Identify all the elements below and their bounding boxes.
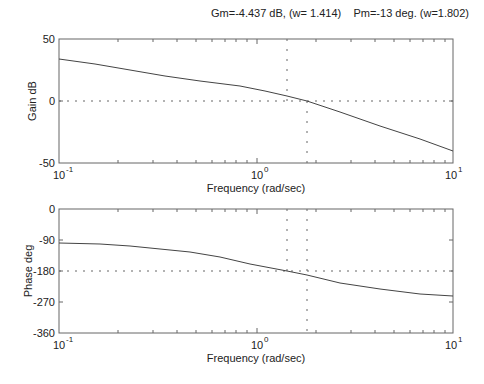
gain-ytick-50: 50 [43, 33, 55, 45]
svg-text:10: 10 [251, 339, 263, 351]
phase-ytick-neg90: -90 [39, 234, 55, 246]
phase-ytick-neg180: -180 [33, 265, 55, 277]
svg-text:10: 10 [53, 339, 65, 351]
svg-text:-1: -1 [66, 335, 74, 344]
svg-text:1: 1 [458, 165, 463, 174]
svg-text:10: 10 [251, 169, 263, 181]
phase-xtick-2: 10 1 [445, 335, 463, 351]
figure-title: Gm=-4.437 dB, (w= 1.414) Pm=-13 deg. (w=… [211, 7, 469, 19]
gain-ylabel: Gain dB [26, 81, 38, 121]
gain-ytick-neg50: -50 [39, 157, 55, 169]
phase-ytick-neg270: -270 [33, 296, 55, 308]
svg-text:0: 0 [264, 165, 269, 174]
gain-xlabel: Frequency (rad/sec) [207, 182, 305, 194]
phase-ytick-neg360: -360 [33, 327, 55, 339]
gain-axes: 50 0 -50 10 -1 10 0 10 1 Frequency (rad/… [26, 33, 463, 194]
gain-xtick-1: 10 0 [251, 165, 269, 181]
phase-xtick-1: 10 0 [251, 335, 269, 351]
gain-axes-frame [59, 39, 453, 163]
svg-text:-1: -1 [66, 165, 74, 174]
phase-curve [59, 243, 453, 296]
bode-figure: Gm=-4.437 dB, (w= 1.414) Pm=-13 deg. (w=… [0, 0, 484, 384]
phase-axes: 0 -90 -180 -270 -360 10 -1 10 0 10 1 Fre… [22, 203, 463, 364]
gain-x-ticks [59, 39, 453, 163]
phase-xlabel: Frequency (rad/sec) [207, 352, 305, 364]
phase-axes-frame [59, 209, 453, 333]
gain-ytick-0: 0 [49, 95, 55, 107]
gain-curve [59, 59, 453, 151]
svg-text:0: 0 [264, 335, 269, 344]
svg-text:10: 10 [53, 169, 65, 181]
gain-xtick-2: 10 1 [445, 165, 463, 181]
phase-x-ticks [59, 209, 453, 333]
svg-text:1: 1 [458, 335, 463, 344]
phase-ylabel: Phase deg [22, 245, 34, 298]
phase-xtick-0: 10 -1 [53, 335, 74, 351]
svg-text:10: 10 [445, 339, 457, 351]
gain-xtick-0: 10 -1 [53, 165, 74, 181]
phase-ytick-0: 0 [49, 203, 55, 215]
svg-text:10: 10 [445, 169, 457, 181]
